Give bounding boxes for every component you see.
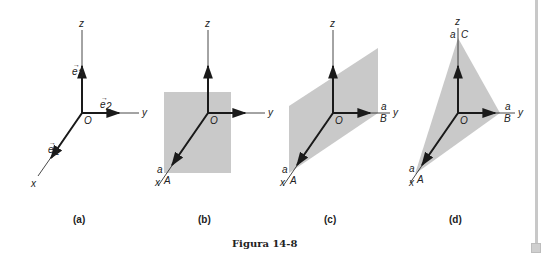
panel-label-a: (a) [73, 214, 85, 225]
z-axis-label: z [204, 18, 210, 29]
e2-label: e 2 → [100, 94, 112, 112]
x-axis-label: x [30, 178, 37, 189]
vector-arrow-icon: → [101, 94, 108, 101]
panel-a: z y x O e 3 → e 2 → e 1 → (a) [30, 18, 148, 225]
z-axis-label: z [454, 16, 460, 27]
point-a-label: A [416, 174, 424, 185]
panel-label-b: (b) [198, 214, 211, 225]
svg-text:3: 3 [78, 68, 84, 79]
point-a-label: A [289, 175, 297, 186]
x-intercept-label: a [157, 164, 163, 175]
origin-label: O [335, 115, 343, 126]
point-a-label: A [163, 175, 171, 186]
svg-text:2: 2 [105, 101, 112, 112]
panel-b: z y x O a A (b) [154, 18, 274, 225]
origin-label: O [84, 115, 92, 126]
vector-arrow-icon: → [73, 61, 80, 68]
figure-caption: Figura 14-8 [232, 238, 297, 249]
point-b-label: B [504, 113, 511, 124]
y-axis-label: y [141, 107, 148, 118]
origin-label: O [460, 115, 468, 126]
y-axis-label: y [392, 107, 399, 118]
panel-label-d: (d) [449, 214, 462, 225]
origin-label: O [210, 115, 218, 126]
panel-label-c: (c) [324, 214, 336, 225]
x-axis-label: x [279, 177, 286, 188]
z-axis-label: z [78, 18, 84, 29]
x-intercept-label: a [409, 163, 415, 174]
z-axis-label: z [329, 18, 335, 29]
y-axis-label: y [267, 107, 274, 118]
y-intercept-label: a [381, 101, 387, 112]
point-c-label: C [461, 29, 469, 40]
panel-d: z a C y a B x O a A (d) [408, 16, 524, 225]
e1-label: e 1 → [48, 139, 60, 157]
figure-14-8: z y x O e 3 → e 2 → e 1 → (a) z y x O [0, 0, 551, 260]
z-intercept-label: a [450, 29, 456, 40]
vertical-scrollbar[interactable] [535, 0, 538, 244]
scrollbar-thumb[interactable] [531, 243, 541, 253]
svg-text:1: 1 [54, 146, 60, 157]
panel-c: z y x O a B a A (c) [279, 18, 399, 225]
y-axis-label: y [517, 107, 524, 118]
y-intercept-label: a [505, 101, 511, 112]
vector-arrow-icon: → [49, 139, 56, 146]
x-axis-label: x [408, 177, 415, 188]
point-b-label: B [380, 113, 387, 124]
x-axis-label: x [154, 177, 161, 188]
x-intercept-label: a [282, 164, 288, 175]
